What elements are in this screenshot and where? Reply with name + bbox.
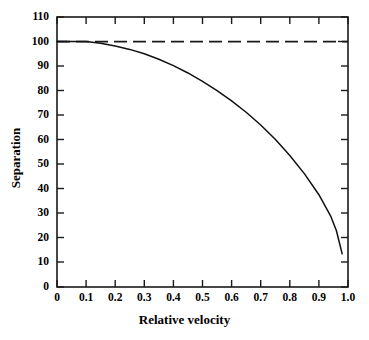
x-axis-ticks-top bbox=[57, 17, 348, 24]
xtick-label-1.0: 1.0 bbox=[328, 291, 368, 303]
ytick-label-20: 20 bbox=[19, 231, 49, 243]
ytick-label-10: 10 bbox=[19, 255, 49, 267]
ytick-label-100: 100 bbox=[19, 35, 49, 47]
x-axis-title: Relative velocity bbox=[0, 312, 369, 328]
plot-frame bbox=[57, 17, 348, 287]
ytick-label-110: 110 bbox=[19, 10, 49, 22]
y-axis-ticks-right bbox=[338, 17, 348, 287]
y-axis-title: Separation bbox=[8, 108, 24, 208]
separation-vs-relative-velocity-chart bbox=[0, 0, 369, 340]
y-axis-ticks-left bbox=[57, 17, 67, 287]
ytick-label-80: 80 bbox=[19, 84, 49, 96]
x-axis-ticks-bottom bbox=[57, 280, 348, 287]
separation-curve-line bbox=[57, 42, 342, 254]
chart-figure: 110 100 90 80 70 60 50 40 30 20 10 0 0 0… bbox=[0, 0, 369, 340]
ytick-label-90: 90 bbox=[19, 59, 49, 71]
